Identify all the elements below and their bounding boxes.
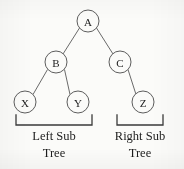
node-label-y: Y xyxy=(74,97,82,109)
binary-tree-diagram: A B C X Y Z xyxy=(0,0,184,169)
tree-node-z[interactable]: Z xyxy=(132,91,154,113)
left-subtree-caption-line1: Left Sub xyxy=(32,129,75,143)
right-subtree-caption-line1: Right Sub xyxy=(115,129,165,143)
tree-node-x[interactable]: X xyxy=(14,91,36,113)
right-subtree-bracket xyxy=(117,115,163,125)
tree-node-group: A B C X Y Z xyxy=(14,10,154,113)
tree-node-b[interactable]: B xyxy=(45,51,67,73)
edge-c-to-z xyxy=(128,70,136,95)
node-label-x: X xyxy=(21,97,29,109)
right-subtree-caption-line2: Tree xyxy=(129,146,152,160)
tree-node-a[interactable]: A xyxy=(77,10,99,32)
tree-node-c[interactable]: C xyxy=(109,51,131,73)
edge-a-to-b xyxy=(63,28,80,54)
bracket-group xyxy=(16,115,163,125)
edge-b-to-x xyxy=(33,70,48,95)
node-label-z: Z xyxy=(140,97,147,109)
left-subtree-caption-line2: Tree xyxy=(43,146,66,160)
node-label-c: C xyxy=(116,57,123,69)
edge-a-to-c xyxy=(97,28,114,54)
left-subtree-bracket xyxy=(16,115,92,125)
tree-node-y[interactable]: Y xyxy=(67,91,89,113)
caption-group: Left Sub Tree Right Sub Tree xyxy=(32,129,165,160)
edge-b-to-y xyxy=(65,70,71,95)
node-label-a: A xyxy=(84,16,92,28)
tree-svg-canvas: A B C X Y Z xyxy=(0,0,184,169)
node-label-b: B xyxy=(52,57,59,69)
